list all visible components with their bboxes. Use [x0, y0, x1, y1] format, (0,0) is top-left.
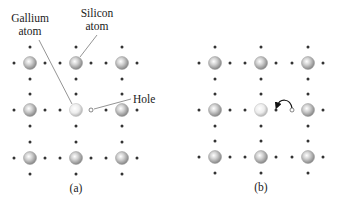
electron-move-arrow-icon: [277, 100, 292, 108]
silicon-atom: [70, 57, 83, 70]
electron-dot: [136, 109, 139, 112]
electron-dot: [214, 78, 217, 81]
electron-dot: [291, 62, 294, 65]
electron-dot: [260, 78, 263, 81]
electron-dot: [307, 46, 310, 49]
panel-a: [13, 46, 139, 176]
electron-dot: [13, 62, 16, 65]
silicon-atom: [116, 57, 129, 70]
electron-dot: [322, 156, 325, 159]
electron-dot: [275, 156, 278, 159]
electron-dot: [244, 156, 247, 159]
electron-dot: [90, 62, 93, 65]
electron-dot: [105, 157, 108, 160]
hole-marker: [290, 108, 294, 112]
electron-dot: [307, 125, 310, 128]
electron-dot: [322, 62, 325, 65]
electron-dot: [275, 62, 278, 65]
silicon-label-line1: Silicon: [81, 7, 114, 19]
silicon-atom: [24, 152, 37, 165]
electron-dot: [214, 125, 217, 128]
electron-dot: [136, 157, 139, 160]
electron-dot: [75, 125, 78, 128]
silicon-atom: [24, 104, 37, 117]
electron-dot: [105, 109, 108, 112]
electron-dot: [260, 140, 263, 143]
silicon-atom: [116, 152, 129, 165]
electron-dot: [75, 78, 78, 81]
electron-dot: [29, 125, 32, 128]
caption-a: (a): [70, 182, 83, 195]
electron-dot: [75, 141, 78, 144]
electron-dot: [75, 93, 78, 96]
electron-dot: [229, 62, 232, 65]
electron-dot: [121, 78, 124, 81]
silicon-atom: [116, 104, 129, 117]
silicon-atom: [302, 57, 315, 70]
gallium-atom: [255, 104, 268, 117]
hole-label: Hole: [133, 93, 155, 105]
electron-dot: [75, 46, 78, 49]
electron-dot: [214, 140, 217, 143]
silicon-atom: [209, 104, 222, 117]
electron-dot: [29, 173, 32, 176]
caption-b: (b): [254, 181, 268, 194]
silicon-atom: [209, 57, 222, 70]
electron-dot: [307, 93, 310, 96]
electron-dot: [44, 109, 47, 112]
electron-dot: [90, 157, 93, 160]
gallium-label-line1: Gallium: [11, 12, 49, 24]
electron-dot: [291, 156, 294, 159]
silicon-atom: [255, 151, 268, 164]
electron-dot: [13, 157, 16, 160]
silicon-atom: [24, 57, 37, 70]
electron-dot: [229, 109, 232, 112]
electron-dot: [75, 173, 78, 176]
silicon-atom: [255, 57, 268, 70]
electron-dot: [260, 93, 263, 96]
electron-dot: [307, 140, 310, 143]
electron-dot: [244, 109, 247, 112]
electron-dot: [214, 93, 217, 96]
electron-dot: [44, 157, 47, 160]
gallium-atom: [70, 104, 83, 117]
electron-dot: [307, 172, 310, 175]
electron-dot: [29, 93, 32, 96]
electron-dot: [229, 156, 232, 159]
electron-dot: [59, 62, 62, 65]
panel-b: [198, 46, 325, 175]
silicon-atom: [70, 152, 83, 165]
electron-dot: [121, 125, 124, 128]
electron-dot: [29, 141, 32, 144]
silicon-label-line2: atom: [86, 20, 109, 32]
hole-marker: [89, 108, 93, 112]
silicon-atom: [302, 104, 315, 117]
silicon-atom: [302, 151, 315, 164]
electron-dot: [121, 46, 124, 49]
electron-dot: [121, 141, 124, 144]
electron-dot: [322, 109, 325, 112]
electron-dot: [260, 46, 263, 49]
electron-dot: [29, 46, 32, 49]
electron-dot: [260, 125, 263, 128]
silicon-atom: [209, 151, 222, 164]
electron-dot: [136, 62, 139, 65]
silicon-leader-line: [80, 35, 97, 57]
electron-dot: [198, 109, 201, 112]
gallium-label-line2: atom: [19, 25, 42, 37]
electron-dot: [59, 157, 62, 160]
electron-dot: [214, 172, 217, 175]
gallium-leader-line: [39, 40, 72, 104]
electron-dot: [198, 156, 201, 159]
electron-dot: [307, 78, 310, 81]
electron-dot: [121, 93, 124, 96]
electron-dot: [244, 62, 247, 65]
electron-dot: [275, 109, 278, 112]
electron-dot: [121, 173, 124, 176]
electron-dot: [44, 62, 47, 65]
electron-dot: [214, 46, 217, 49]
electron-dot: [260, 172, 263, 175]
electron-dot: [105, 62, 108, 65]
semiconductor-lattice-figure: Gallium atom Silicon atom Hole (a) (b): [0, 0, 338, 212]
electron-dot: [29, 78, 32, 81]
